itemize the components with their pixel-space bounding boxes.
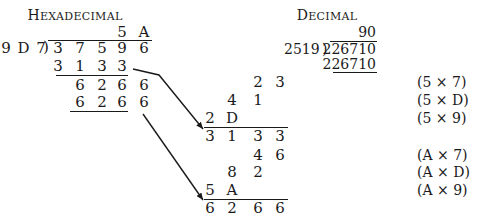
arrow-icon bbox=[143, 114, 203, 200]
connector-arrows bbox=[0, 0, 479, 222]
arrow-icon bbox=[133, 69, 203, 129]
